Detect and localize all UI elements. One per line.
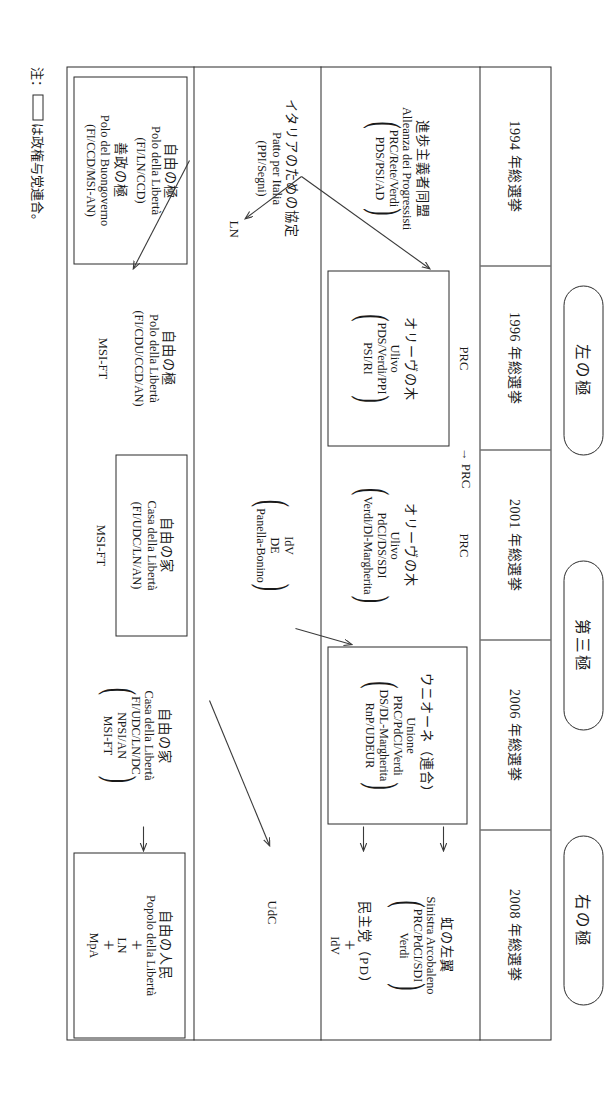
band-rule-left-third — [320, 66, 321, 1040]
left-2001-alliance: オリーヴの木 Ulivo ( PdCI/DS/SDI Verdi/Dl-Marg… — [327, 454, 449, 636]
third-1994-members: (PPI/Segni) — [254, 99, 268, 238]
left-2008-it: Sinistra Arcobaleno — [423, 896, 438, 994]
left-1994-members-1: PRC/Rete/Verdi — [385, 129, 399, 206]
right-2006-it: Casa della Libertà — [141, 686, 156, 783]
right-2001-jp: 自由の家 — [158, 500, 174, 590]
paren-open: ( — [99, 687, 141, 694]
right-1994-jp-2: 善政の極 — [111, 114, 127, 226]
right-1996-jp: 自由の極 — [160, 310, 176, 406]
legend-note-prefix: 注： — [28, 66, 47, 92]
right-2008-add-2: MpA — [86, 894, 100, 995]
left-2001-prc-label: PRC — [456, 533, 471, 557]
left-2008-idv-label: IdV — [327, 901, 341, 990]
paren-close: ) — [364, 208, 406, 215]
right-2008-it: Popolo della Libertà — [142, 894, 157, 995]
right-2008-jp: 自由の人民 — [157, 894, 173, 995]
left-2008-pd-label: 民主党（PD） — [355, 901, 371, 990]
left-1996-jp: オリーヴの木 — [401, 313, 417, 404]
year-label-1996: 1996 年総選挙 — [505, 312, 525, 404]
right-1994-members-2: (FI/CCD/MSI-AN) — [83, 114, 97, 226]
paren-open: ( — [361, 681, 403, 688]
year-header-2006: 2006 年総選挙 — [480, 640, 550, 830]
pole-pill-left: 左の極 — [563, 285, 603, 455]
paren-open: ( — [352, 314, 394, 321]
left-1996-prc-label: PRC — [456, 346, 471, 370]
legend-swatch-icon — [32, 94, 43, 120]
third-2001-members-3: Panella-Bonino — [252, 508, 266, 583]
left-1996-members-1: PDS/Verdi/PPI — [373, 322, 387, 394]
left-2001-members-2: Verdi/Dl-Margherita — [359, 496, 373, 594]
rotated-figure-stage: 左の極 第三極 右の極 1994 年総選挙 1996 年総選挙 2001 年総選… — [0, 0, 613, 1109]
band-rule-third-right — [193, 66, 194, 1040]
right-1994-it-2: Polo del Buongoverno — [97, 114, 112, 226]
right-2001-it: Casa della Libertà — [143, 500, 158, 590]
left-2008-pd-plus: ＋ — [341, 901, 355, 990]
left-prc-transition-label: → PRC — [457, 447, 473, 488]
third-2001-members-1: IdV — [280, 508, 294, 583]
left-2006-jp: ウニオーネ（連合） — [417, 672, 433, 798]
right-1994-members-1: (FI/LN/CCD) — [133, 126, 147, 215]
right-2001-msift-label: MSI-FT — [93, 524, 108, 565]
right-2001-members: (FI/UDC/LN/AN) — [129, 500, 143, 590]
left-2001-members-1: PdCI/DS/SDI — [373, 496, 387, 594]
third-1994-jp: イタリアのための協定 — [283, 99, 299, 238]
paren-close: ) — [388, 983, 430, 990]
pole-pill-right-label: 右の極 — [572, 893, 594, 947]
left-1996-alliance-box: オリーヴの木 Ulivo ( PDS/Verdi/PPI PSI/RI ) — [327, 270, 449, 446]
left-1994-jp: 進歩主義者同盟 — [413, 106, 429, 229]
year-strip-rule — [479, 66, 480, 1040]
left-2006-alliance-box: ウニオーネ（連合） Unione ( PRC/PdCI/Verdi DS/DL-… — [327, 646, 467, 824]
left-1996-it: Ulivo — [387, 313, 402, 404]
left-2008-pd-block: 民主党（PD） ＋ IdV — [325, 852, 373, 1038]
paren-close: ) — [352, 395, 394, 402]
right-1996-outside-msift: MSI-FT — [91, 270, 113, 446]
right-1994-alliance-box: 自由の極 Polo della Libertà (FI/LN/CCD) 善政の極… — [73, 76, 187, 264]
third-2001-members-2: DE — [266, 508, 280, 583]
pole-pill-right: 右の極 — [563, 835, 603, 1005]
right-1996-msift-label: MSI-FT — [95, 337, 110, 378]
legend-note: 注： は政権与党連合。 — [28, 66, 47, 226]
left-1994-members-2: PDS/PSI/AD — [371, 129, 385, 206]
paren-open: ( — [252, 499, 294, 506]
left-2006-members-1: PRC/PdCI/Verdi — [389, 689, 403, 781]
year-header-2001: 2001 年総選挙 — [480, 450, 550, 640]
year-header-1996: 1996 年総選挙 — [480, 266, 550, 450]
year-label-1994: 1994 年総選挙 — [505, 120, 525, 212]
right-2006-members-1: FI/UDC/LN/DC — [127, 696, 141, 775]
year-label-2008: 2008 年総選挙 — [505, 889, 525, 981]
left-2008-jp: 虹の左翼 — [437, 896, 453, 994]
right-1996-alliance: 自由の極 Polo della Libertà (FI/CDU/CCD/AN) — [119, 270, 187, 446]
right-2006-members-3: MSI-FT — [99, 696, 113, 775]
right-2008-plus-1: ＋ — [128, 894, 142, 995]
right-2006-members-2: NPSI/AN — [113, 696, 127, 775]
year-label-2001: 2001 年総選挙 — [505, 499, 525, 591]
year-label-2006: 2006 年総選挙 — [505, 689, 525, 781]
left-2006-members-3: RnP/UDEUR — [361, 689, 375, 781]
paren-open: ( — [364, 121, 406, 128]
right-2006-alliance: 自由の家 Casa della Libertà ( FI/UDC/LN/DC N… — [83, 646, 187, 824]
pole-pill-left-label: 左の極 — [572, 343, 594, 397]
coalition-evolution-diagram: 左の極 第三極 右の極 1994 年総選挙 1996 年総選挙 2001 年総選… — [0, 0, 613, 1109]
right-2008-alliance-box: 自由の人民 Popolo della Libertà ＋ LN ＋ MpA — [73, 852, 185, 1038]
third-2008-udc: UdC — [259, 852, 283, 972]
pole-pill-third: 第三極 — [563, 560, 603, 730]
left-1996-outside-prc: PRC — [453, 270, 473, 446]
paren-close: ) — [352, 595, 394, 602]
paren-close: ) — [99, 775, 141, 782]
left-1996-members-2: PSI/RI — [359, 322, 373, 394]
right-1996-members: (FI/CDU/CCD/AN) — [131, 310, 145, 406]
left-2008-members-1: PRC/PdCI/SDI — [409, 908, 423, 981]
right-2008-plus-2: ＋ — [100, 894, 114, 995]
year-header-2008: 2008 年総選挙 — [480, 830, 550, 1039]
third-1994-ln-label: LN — [225, 220, 241, 237]
left-2006-it: Unione — [403, 672, 418, 798]
left-2008-members-2: Verdi — [395, 908, 409, 981]
left-1994-alliance: 進歩主義者同盟 Alleanza dei Progressisti ( PRC/… — [327, 72, 473, 264]
pole-pill-third-label: 第三極 — [572, 618, 594, 672]
right-1994-it-1: Polo della Libertà — [147, 126, 162, 215]
paren-open: ( — [352, 487, 394, 494]
right-1994-jp-1: 自由の極 — [162, 126, 178, 215]
right-2006-jp: 自由の家 — [155, 686, 171, 783]
paren-close: ) — [252, 583, 294, 590]
left-2001-it: Ulivo — [387, 486, 402, 603]
